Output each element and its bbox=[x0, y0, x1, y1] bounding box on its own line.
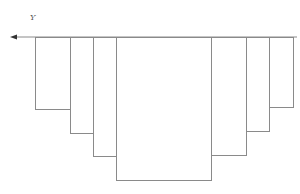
step-diagram bbox=[0, 0, 300, 194]
bar-4 bbox=[117, 38, 212, 181]
bar-1 bbox=[36, 38, 71, 110]
arrow-left-icon bbox=[10, 35, 17, 40]
bar-7 bbox=[270, 38, 294, 108]
bar-3 bbox=[94, 38, 117, 157]
bar-5 bbox=[212, 38, 247, 156]
bars-group bbox=[36, 38, 294, 181]
bar-2 bbox=[71, 38, 94, 134]
bar-6 bbox=[247, 38, 270, 132]
